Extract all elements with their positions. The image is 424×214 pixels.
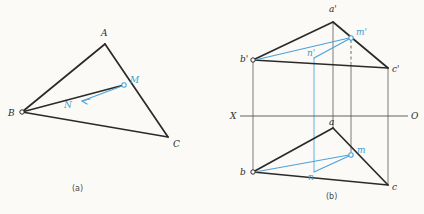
- label-A: A: [100, 28, 108, 38]
- label-b-lower: b: [240, 167, 246, 177]
- vertex-marker-B: [20, 110, 24, 114]
- point-marker-m: [349, 153, 353, 157]
- vertex-marker-bp: [251, 58, 255, 62]
- point-marker-M: [122, 83, 126, 87]
- label-O: O: [411, 111, 419, 121]
- diagram-a-group: A B C M N (a): [7, 28, 180, 193]
- accent-edge-bp-mp: [255, 38, 349, 60]
- accent-segment-n-m: [82, 86, 122, 101]
- label-c-prime: c': [392, 64, 400, 74]
- label-m-lower: m: [357, 145, 366, 155]
- edge-b-c-lower: [253, 172, 388, 185]
- label-a-lower: a: [329, 117, 334, 127]
- label-C: C: [173, 139, 180, 149]
- label-X: X: [229, 111, 237, 121]
- technical-drawing-svg: A B C M N (a) X O: [0, 0, 424, 214]
- label-b-prime: b': [240, 54, 248, 64]
- figure-canvas: A B C M N (a) X O: [0, 0, 424, 214]
- edge-bp-cp: [253, 60, 388, 68]
- label-M: M: [129, 75, 140, 85]
- edge-b-c: [22, 112, 168, 137]
- label-n-prime: n': [307, 48, 315, 58]
- label-B: B: [7, 108, 15, 118]
- caption-b: (b): [326, 192, 337, 201]
- label-N: N: [63, 100, 73, 110]
- accent-pointer-n: [82, 99, 90, 104]
- label-n-lower: n: [308, 172, 314, 182]
- label-c-lower: c: [392, 182, 397, 192]
- vertex-marker-b: [251, 170, 255, 174]
- label-m-prime: m': [356, 27, 367, 37]
- caption-a: (a): [72, 184, 83, 193]
- diagram-b-group: X O a' b' c' m' n' a: [229, 4, 419, 201]
- label-a-prime: a': [329, 4, 337, 14]
- point-marker-mp: [349, 36, 353, 40]
- edge-a-c: [105, 44, 168, 137]
